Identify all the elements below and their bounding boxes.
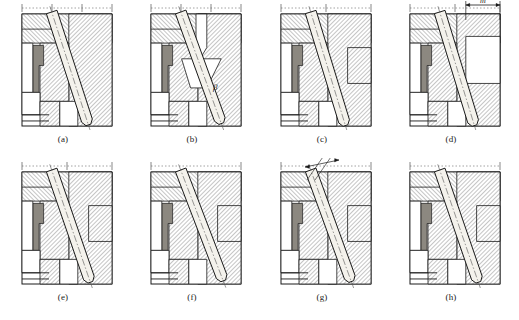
centerline-scale (151, 4, 241, 12)
mold-section-panel-g: δ (277, 158, 377, 288)
centerline-scale (151, 162, 241, 170)
centerline-scale (281, 162, 371, 170)
dimension-label-m: m (480, 0, 486, 5)
panel-caption-e: (e) (18, 292, 108, 302)
mold-section-panel-e (18, 158, 118, 288)
angle-label-delta: δ (317, 158, 322, 159)
panel-caption-f: (f) (147, 292, 237, 302)
panel-caption-b: (b) (147, 134, 237, 144)
mold-section-panel-h (406, 158, 506, 288)
angle-label-beta: β (212, 82, 218, 92)
mold-section-panel-c (277, 0, 377, 130)
centerline-scale (22, 162, 112, 170)
centerline-scale (281, 4, 371, 12)
centerline-scale (22, 4, 112, 12)
centerline-scale (410, 162, 500, 170)
panel-caption-d: (d) (406, 134, 496, 144)
mold-section-panel-d: m (406, 0, 506, 130)
mold-section-panel-f (147, 158, 247, 288)
panel-caption-h: (h) (406, 292, 496, 302)
panel-caption-c: (c) (277, 134, 367, 144)
mold-section-panel-a (18, 0, 118, 130)
panel-caption-a: (a) (18, 134, 108, 144)
figure-sheet: δmβ (a) (b) (c) (d) (e) (f) (g) (h) (0, 0, 519, 320)
panel-caption-g: (g) (277, 292, 367, 302)
mold-section-panel-b: β (147, 0, 247, 130)
